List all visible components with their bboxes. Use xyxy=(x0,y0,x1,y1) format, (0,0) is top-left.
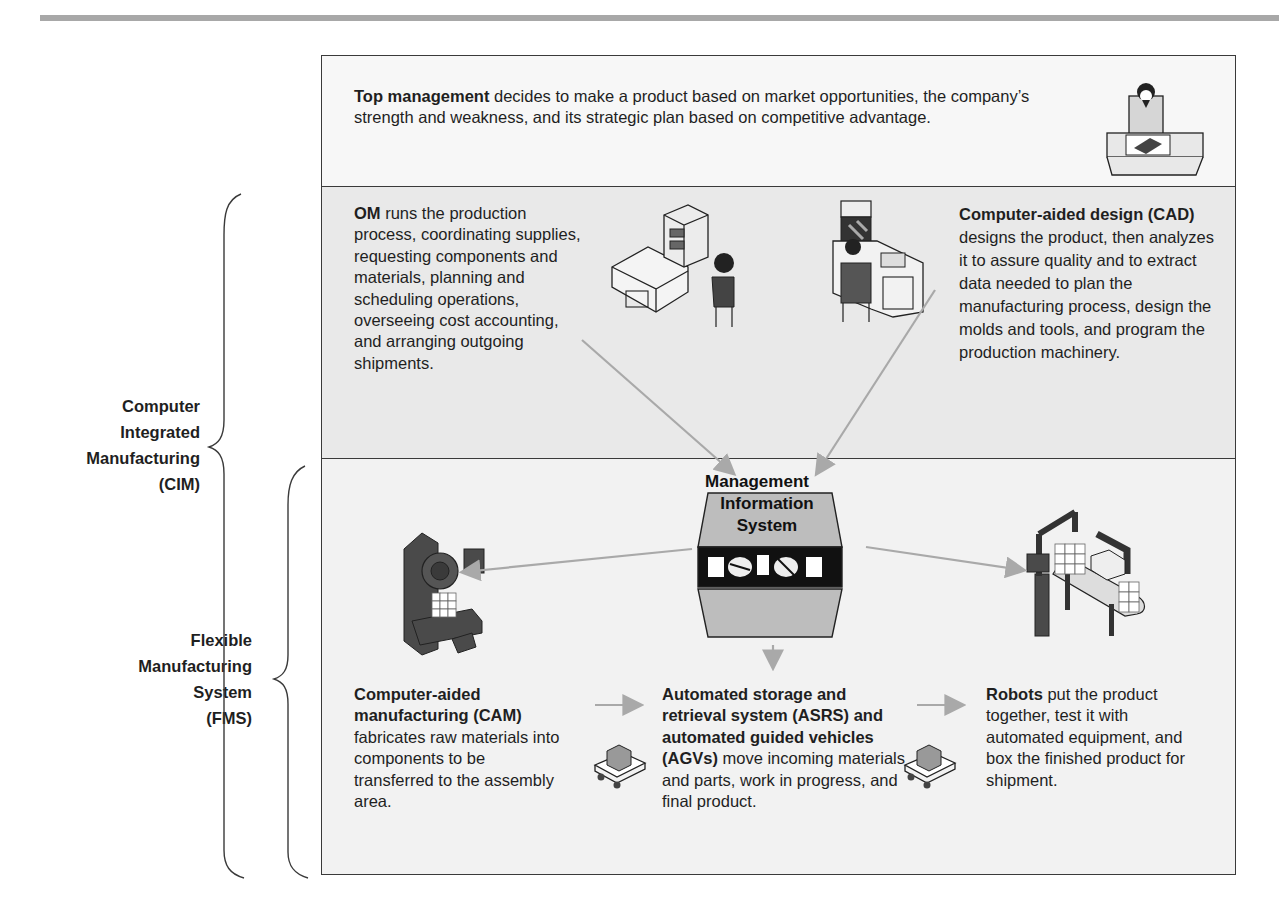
mis-to-cam-arrow-icon xyxy=(463,549,692,572)
cad-to-mis-arrow-icon xyxy=(817,290,935,473)
mis-to-robots-arrow-icon xyxy=(866,547,1023,570)
om-to-mis-arrow-icon xyxy=(582,340,733,473)
flow-arrows xyxy=(0,0,1279,916)
